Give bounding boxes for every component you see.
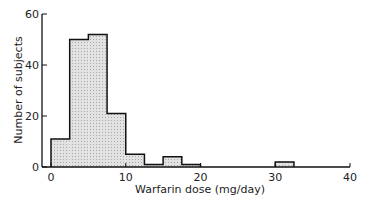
histogram-bar [163, 157, 182, 167]
histogram-bar [275, 162, 294, 167]
x-axis-label: Warfarin dose (mg/day) [135, 183, 265, 196]
y-tick-label: 0 [32, 161, 39, 174]
histogram-chart: 0204060010203040Warfarin dose (mg/day)Nu… [0, 0, 374, 201]
x-tick-label: 0 [48, 171, 55, 184]
y-tick-label: 40 [25, 59, 39, 72]
histogram-bar [88, 34, 107, 167]
y-axis-label: Number of subjects [12, 36, 25, 144]
histogram-bar [126, 154, 145, 167]
x-tick-label: 40 [343, 171, 357, 184]
x-tick-label: 10 [119, 171, 133, 184]
y-tick-label: 20 [25, 110, 39, 123]
histogram-bar [51, 139, 70, 167]
x-tick-label: 30 [268, 171, 282, 184]
y-tick-label: 60 [25, 8, 39, 21]
histogram-bar [107, 113, 126, 167]
histogram-bar [70, 40, 89, 168]
